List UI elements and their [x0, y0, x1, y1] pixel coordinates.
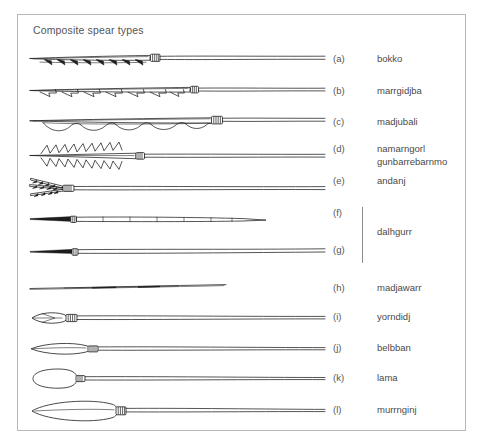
row-letter-k: (k): [333, 372, 344, 383]
row-name-madjawarr: madjawarr: [377, 282, 421, 295]
row-name-lama: lama: [377, 372, 398, 385]
row-letter-d: (d): [333, 143, 345, 154]
row-letter-l: (l): [333, 404, 341, 415]
row-name-marrgidjba: marrgidjba: [377, 85, 422, 98]
row-name-madjubali: madjubali: [377, 116, 418, 129]
row-name-murrnginj: murrnginj: [377, 404, 417, 417]
group-bracket-fg: [362, 207, 363, 263]
row-letter-h: (h): [333, 282, 345, 293]
row-letter-i: (i): [333, 311, 341, 322]
row-name-yorndidj: yorndidj: [377, 311, 410, 324]
figure-frame: [17, 14, 466, 431]
figure-root: Composite spear types: [0, 0, 485, 447]
row-name-dalhgurr: dalhgurr: [377, 226, 412, 239]
row-letter-g: (g): [333, 244, 345, 255]
row-name-bokko: bokko: [377, 53, 402, 66]
row-letter-a: (a): [333, 53, 345, 64]
figure-title: Composite spear types: [33, 24, 144, 36]
row-letter-j: (j): [333, 342, 341, 353]
row-letter-b: (b): [333, 85, 345, 96]
row-letter-f: (f): [333, 207, 342, 218]
row-name-namarngorl-gunbarrebarnmo: namarngorl gunbarrebarnmo: [377, 143, 447, 168]
row-letter-e: (e): [333, 175, 345, 186]
row-name-andanj: andanj: [377, 175, 406, 188]
row-name-belbban: belbban: [377, 342, 411, 355]
row-letter-c: (c): [333, 116, 344, 127]
